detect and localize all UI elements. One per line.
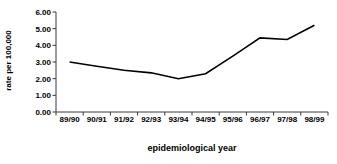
x-tick-label: 98/99 xyxy=(304,115,324,124)
axis-group xyxy=(53,12,329,116)
x-tick-label: 93/94 xyxy=(168,115,188,124)
y-tick-label: 5.00 xyxy=(35,24,51,33)
y-axis-title-text: rate per 100,000 xyxy=(4,30,13,91)
y-tick-label: 1.00 xyxy=(35,91,51,100)
y-axis-title: rate per 100,000 xyxy=(0,0,16,120)
x-tick-label: 97/98 xyxy=(277,115,297,124)
y-tick-label: 0.00 xyxy=(35,108,51,117)
x-tick-label: 90/91 xyxy=(87,115,107,124)
y-axis-tick-labels: 0.001.002.003.004.005.006.00 xyxy=(16,12,54,112)
x-axis-tick-labels: 89/9090/9191/9292/9393/9494/9595/9696/97… xyxy=(56,115,328,129)
x-tick-label: 92/93 xyxy=(141,115,161,124)
y-tick-label: 2.00 xyxy=(35,74,51,83)
plot-svg xyxy=(56,12,328,112)
x-tick-label: 89/90 xyxy=(60,115,80,124)
line-chart: rate per 100,000 0.001.002.003.004.005.0… xyxy=(0,0,337,164)
y-tick-label: 3.00 xyxy=(35,58,51,67)
x-tick-label: 95/96 xyxy=(223,115,243,124)
data-series-line xyxy=(70,25,315,78)
plot-area xyxy=(56,12,328,112)
x-axis-title: epidemiological year xyxy=(56,143,328,153)
x-tick-label: 91/92 xyxy=(114,115,134,124)
y-tick-label: 6.00 xyxy=(35,8,51,17)
x-tick-label: 94/95 xyxy=(196,115,216,124)
y-tick-label: 4.00 xyxy=(35,41,51,50)
x-tick-label: 96/97 xyxy=(250,115,270,124)
